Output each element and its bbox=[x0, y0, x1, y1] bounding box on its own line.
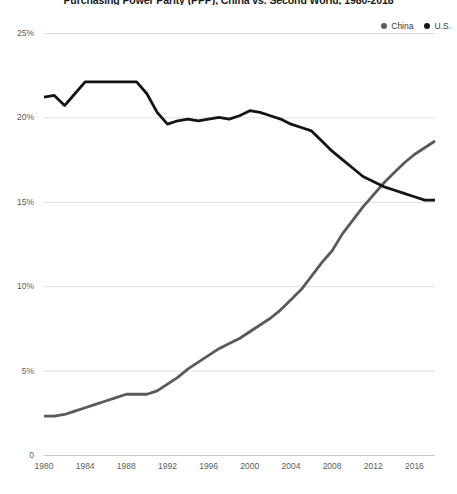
y-axis-tick-label: 20% bbox=[4, 112, 34, 122]
y-axis-tick-label: 15% bbox=[4, 197, 34, 207]
y-axis-tick-label: 25% bbox=[4, 28, 34, 38]
y-axis-tick-label: 5% bbox=[4, 366, 34, 376]
x-axis-tick-label: 2004 bbox=[271, 461, 311, 471]
series-line-us bbox=[44, 82, 435, 200]
x-axis-tick-label: 1992 bbox=[147, 461, 187, 471]
x-axis-tick-label: 2012 bbox=[353, 461, 393, 471]
y-axis-tick-label: 0 bbox=[4, 450, 34, 460]
chart-container: Purchasing Power Parity (PPP), China vs.… bbox=[0, 0, 457, 494]
x-axis-tick-label: 1988 bbox=[106, 461, 146, 471]
x-axis-tick-label: 1996 bbox=[189, 461, 229, 471]
y-axis-tick-label: 10% bbox=[4, 281, 34, 291]
plot-area bbox=[0, 0, 457, 494]
x-axis-tick-label: 2008 bbox=[312, 461, 352, 471]
x-axis-tick-label: 1980 bbox=[24, 461, 64, 471]
x-axis-tick-label: 1984 bbox=[65, 461, 105, 471]
x-axis-tick-label: 2000 bbox=[230, 461, 270, 471]
x-axis-tick-label: 2016 bbox=[394, 461, 434, 471]
